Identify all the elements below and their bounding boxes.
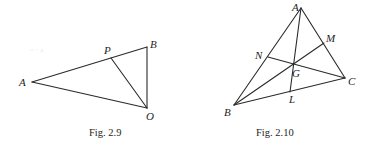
vertex-label-P: P — [103, 44, 111, 56]
vertex-label-M: M — [325, 32, 336, 44]
vertex-label-B: B — [224, 106, 231, 118]
vertex-label-G: G — [292, 67, 300, 79]
segment-AB — [32, 47, 147, 82]
figure-caption: Fig. 2.10 — [256, 127, 294, 138]
segment-PO — [111, 58, 147, 108]
vertex-label-L: L — [288, 93, 295, 105]
vertex-label-C: C — [348, 75, 356, 87]
vertex-label-O: O — [146, 110, 154, 122]
figures-canvas: ~ ·· ʌ A P B O Fig. 2.9 A M C N G L B Fi… — [0, 0, 372, 142]
segment-AB — [234, 8, 301, 105]
segment-OA — [32, 82, 147, 108]
median-BM — [234, 43, 324, 105]
scan-smudge: ~ ·· ʌ — [30, 47, 43, 53]
vertex-label-N: N — [254, 49, 263, 61]
figure-2-9: A P B O Fig. 2.9 — [18, 38, 157, 138]
vertex-label-B: B — [150, 38, 157, 50]
figure-2-10: A M C N G L B Fig. 2.10 — [224, 1, 356, 138]
vertex-label-A: A — [18, 76, 26, 88]
vertex-label-A: A — [291, 1, 299, 13]
figure-caption: Fig. 2.9 — [89, 127, 121, 138]
